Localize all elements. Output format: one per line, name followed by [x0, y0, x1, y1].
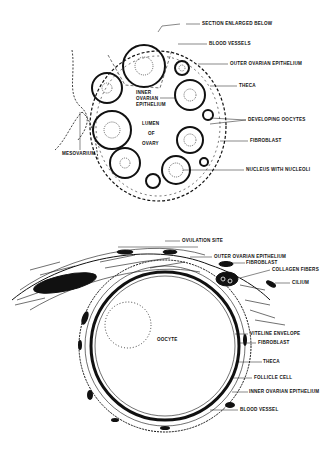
label-fibroblast: FIBROBLAST	[250, 139, 282, 144]
label-section-enlarged: SECTION ENLARGED BELOW	[202, 22, 272, 27]
label-developing-oocytes: DEVELOPING OOCYTES	[248, 118, 305, 123]
label-nucleus-with-nucleoli: NUCLEUS WITH NUCLEOLI	[246, 168, 310, 173]
label-fibroblast-top: FIBROBLAST	[246, 261, 278, 266]
label-follicle-cell: FOLLICLE CELL	[254, 376, 292, 381]
label-cilium: CILIUM	[292, 281, 309, 286]
label-lumen-ovary: OVARY	[142, 142, 159, 147]
label-inner-ovarian-epithelium: INNER OVARIAN EPITHELIUM	[249, 390, 319, 395]
label-theca: THECA	[239, 84, 256, 89]
label-inner-epithelium-1: INNER	[136, 91, 151, 96]
label-mesovarium: MESOVARIUM	[62, 152, 95, 157]
label-ovulation-site: OVULATION SITE	[182, 239, 223, 244]
label-theca-bottom: THECA	[263, 360, 280, 365]
label-outer-ovarian-epithelium-2: OUTER OVARIAN EPITHELIUM	[214, 255, 286, 260]
label-blood-vessel: BLOOD VESSEL	[240, 408, 278, 413]
label-outer-ovarian-epithelium: OUTER OVARIAN EPITHELIUM	[230, 62, 302, 67]
label-lumen-of: OF	[148, 132, 155, 137]
label-fibroblast-mid: FIBROBLAST	[258, 341, 290, 346]
label-lumen: LUMEN	[142, 122, 159, 127]
label-collagen-fibers: COLLAGEN FIBERS	[272, 268, 319, 273]
enlarged-section	[12, 241, 290, 432]
label-inner-epithelium-2: OVARIAN	[136, 97, 158, 102]
label-oocyte: OOCYTE	[157, 338, 178, 343]
ovary-cross-section	[55, 24, 248, 201]
label-blood-vessels: BLOOD VESSELS	[209, 42, 251, 47]
label-vitelline-envelope: VITELINE ENVELOPE	[250, 332, 300, 337]
label-inner-epithelium-3: EPITHELIUM	[136, 103, 166, 108]
ovary-diagram	[0, 0, 326, 456]
